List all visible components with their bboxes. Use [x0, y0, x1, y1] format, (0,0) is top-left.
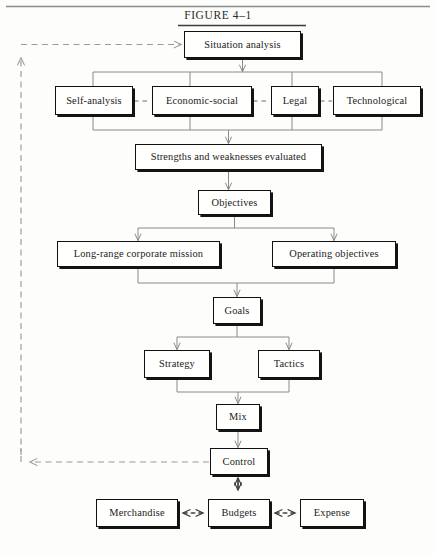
- node-legal[interactable]: Legal: [271, 86, 319, 115]
- node-goals[interactable]: Goals: [213, 297, 261, 324]
- node-label: Mix: [224, 411, 252, 422]
- node-strengths-weaknesses[interactable]: Strengths and weaknesses evaluated: [135, 144, 322, 170]
- node-label: Expense: [309, 507, 355, 518]
- node-situation-analysis[interactable]: Situation analysis: [184, 31, 301, 58]
- node-label: Self-analysis: [61, 95, 127, 106]
- node-label: Legal: [278, 95, 312, 106]
- node-budgets[interactable]: Budgets: [208, 499, 270, 527]
- node-objectives[interactable]: Objectives: [198, 190, 271, 215]
- node-label: Merchandise: [104, 507, 169, 518]
- node-label: Situation analysis: [199, 39, 285, 50]
- node-technological[interactable]: Technological: [333, 86, 421, 115]
- node-long-range-corporate-mission[interactable]: Long-range corporate mission: [57, 241, 220, 267]
- node-label: Budgets: [216, 507, 261, 518]
- node-label: Strengths and weaknesses evaluated: [146, 151, 311, 162]
- node-self-analysis[interactable]: Self-analysis: [55, 86, 133, 115]
- node-label: Long-range corporate mission: [69, 248, 208, 259]
- node-expense[interactable]: Expense: [300, 499, 364, 527]
- node-strategy[interactable]: Strategy: [144, 350, 210, 378]
- node-economic-social[interactable]: Economic-social: [152, 86, 252, 115]
- node-label: Tactics: [269, 358, 309, 369]
- node-label: Technological: [342, 95, 413, 106]
- node-tactics[interactable]: Tactics: [258, 350, 320, 378]
- node-mix[interactable]: Mix: [216, 404, 260, 430]
- node-label: Goals: [220, 305, 255, 316]
- node-label: Objectives: [207, 197, 263, 208]
- node-control[interactable]: Control: [210, 448, 268, 475]
- node-label: Control: [218, 456, 261, 467]
- node-merchandise[interactable]: Merchandise: [96, 499, 178, 527]
- node-label: Operating objectives: [284, 248, 383, 259]
- figure-page: FIGURE 4–1: [0, 0, 436, 554]
- node-operating-objectives[interactable]: Operating objectives: [272, 241, 396, 267]
- node-label: Economic-social: [161, 95, 243, 106]
- node-label: Strategy: [154, 358, 200, 369]
